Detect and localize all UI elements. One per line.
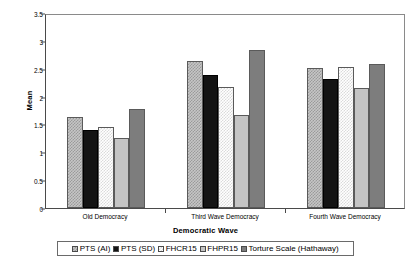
bar — [67, 117, 83, 208]
bar — [307, 68, 323, 208]
x-category-label: Old Democracy — [83, 213, 128, 220]
bar — [323, 79, 339, 208]
bar — [98, 127, 114, 208]
x-category-label: Third Wave Democracy — [191, 213, 259, 220]
bar — [114, 138, 130, 208]
y-tick-label: 2.5 — [0, 66, 43, 73]
plot-area — [45, 14, 405, 209]
legend-label: FHPR15 — [207, 245, 238, 253]
legend-label: PTS (AI) — [80, 245, 111, 253]
legend-label: Torture Scale (Hathaway) — [248, 245, 338, 253]
legend-swatch-icon — [200, 246, 206, 252]
bar — [234, 115, 250, 208]
legend-swatch-icon — [158, 246, 164, 252]
bar — [369, 64, 385, 208]
legend-item[interactable]: FHCR15 — [157, 245, 199, 253]
legend-swatch-icon — [113, 246, 119, 252]
legend-label: FHCR15 — [166, 245, 197, 253]
y-tick-label: 0.5 — [0, 178, 43, 185]
y-tick-label: 2 — [0, 94, 43, 101]
bar — [249, 50, 265, 208]
bar — [187, 61, 203, 208]
x-tick-mark — [165, 209, 166, 213]
bar — [354, 88, 370, 208]
bar — [129, 109, 145, 208]
y-tick-label: 0 — [0, 206, 43, 213]
bar — [218, 87, 234, 208]
chart-legend: PTS (AI)PTS (SD)FHCR15FHPR15Torture Scal… — [57, 241, 354, 256]
x-category-label: Fourth Wave Democracy — [309, 213, 381, 220]
y-tick-label: 1.5 — [0, 122, 43, 129]
legend-swatch-icon — [241, 246, 247, 252]
legend-swatch-icon — [72, 246, 78, 252]
y-tick-label: 3.5 — [0, 11, 43, 18]
legend-item[interactable]: PTS (SD) — [112, 245, 157, 253]
x-tick-mark — [285, 209, 286, 213]
bar — [203, 75, 219, 208]
legend-item[interactable]: PTS (AI) — [71, 245, 112, 253]
chart-container: Mean 00.511.522.533.5 Old DemocracyThird… — [0, 0, 411, 262]
legend-item[interactable]: Torture Scale (Hathaway) — [239, 245, 340, 253]
legend-label: PTS (SD) — [121, 245, 155, 253]
y-tick-label: 3 — [0, 38, 43, 45]
bar — [83, 130, 99, 208]
bar — [338, 67, 354, 208]
legend-item[interactable]: FHPR15 — [198, 245, 239, 253]
x-axis-label: Democratic Wave — [0, 226, 411, 235]
y-tick-label: 1 — [0, 150, 43, 157]
